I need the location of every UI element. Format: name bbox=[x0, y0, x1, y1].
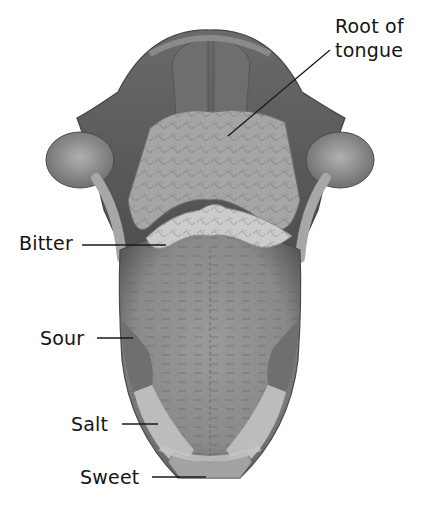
tongue-diagram: Root of tongue Bitter Sour Salt Sweet bbox=[0, 0, 422, 506]
label-bitter: Bitter bbox=[19, 232, 73, 254]
left-tonsil bbox=[46, 132, 114, 188]
right-tonsil bbox=[306, 132, 374, 188]
label-sweet: Sweet bbox=[80, 466, 139, 488]
label-root-line-1: Root of bbox=[335, 14, 404, 38]
label-root-line-2: tongue bbox=[335, 38, 404, 62]
label-salt: Salt bbox=[71, 413, 108, 435]
label-root-of-tongue: Root of tongue bbox=[335, 14, 404, 62]
label-sour: Sour bbox=[40, 327, 84, 349]
